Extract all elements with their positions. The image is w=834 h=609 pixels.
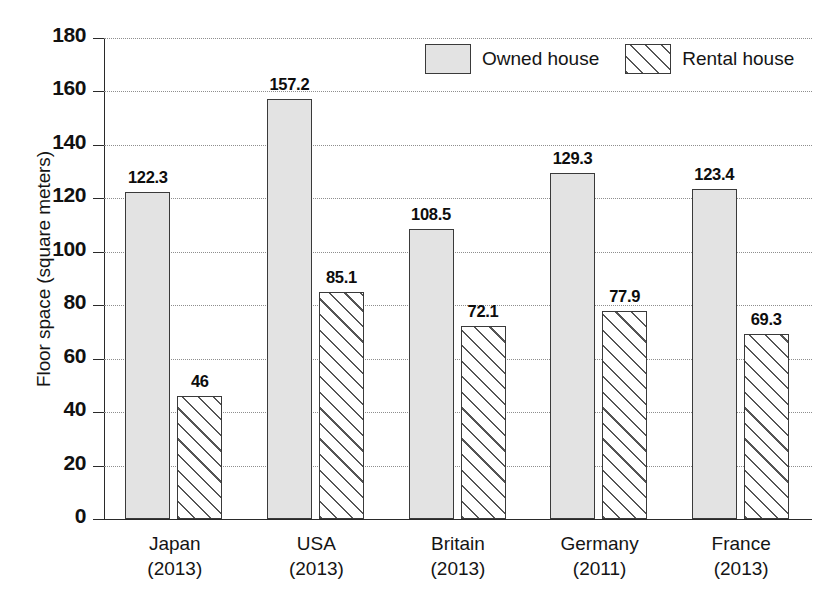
bar-value-label: 46	[159, 372, 240, 391]
bar-germany-rental	[602, 311, 647, 519]
y-axis-tick-label: 60	[0, 344, 86, 368]
bar-value-label: 122.3	[107, 168, 188, 187]
bar-germany-owned	[550, 173, 595, 519]
bar-japan-rental	[177, 396, 222, 519]
x-axis-label-france: France(2013)	[650, 531, 832, 581]
legend-swatch-owned	[425, 44, 471, 74]
legend-swatch-rental	[625, 44, 671, 74]
bar-value-label: 85.1	[301, 268, 382, 287]
y-axis-tick	[93, 359, 104, 360]
y-axis-tick-label: 160	[0, 76, 86, 100]
y-axis-tick	[93, 91, 104, 92]
chart-legend: Owned houseRental house	[425, 44, 794, 74]
y-axis-tick	[93, 519, 104, 520]
bar-value-label: 157.2	[249, 75, 330, 94]
legend-label: Rental house	[682, 48, 794, 70]
category-name: USA	[297, 533, 336, 554]
y-axis-tick-label: 80	[0, 290, 86, 314]
y-axis-tick-label: 100	[0, 237, 86, 261]
legend-entry-rental-house: Rental house	[625, 44, 794, 74]
bar-value-label: 129.3	[532, 149, 613, 168]
gridline	[104, 145, 812, 146]
bar-france-owned	[692, 189, 737, 519]
y-axis-tick	[93, 252, 104, 253]
category-name: Britain	[431, 533, 485, 554]
bar-value-label: 72.1	[443, 302, 524, 321]
y-axis-tick	[93, 412, 104, 413]
bar-value-label: 123.4	[674, 165, 755, 184]
y-axis-tick	[93, 198, 104, 199]
bar-value-label: 69.3	[726, 310, 807, 329]
category-year: (2013)	[650, 556, 832, 581]
y-axis-tick-label: 0	[0, 504, 86, 528]
y-axis-tick	[93, 38, 104, 39]
y-axis-tick	[93, 145, 104, 146]
y-axis-tick-label: 180	[0, 23, 86, 47]
y-axis-tick-label: 140	[0, 130, 86, 154]
gridline	[104, 91, 812, 92]
y-axis-tick-label: 120	[0, 183, 86, 207]
bar-usa-rental	[319, 292, 364, 519]
category-name: Germany	[561, 533, 639, 554]
y-axis-tick	[93, 466, 104, 467]
plot-area	[104, 38, 812, 519]
bar-britain-owned	[409, 229, 454, 519]
bar-france-rental	[744, 334, 789, 519]
legend-label: Owned house	[482, 48, 599, 70]
bar-usa-owned	[267, 99, 312, 519]
y-axis-tick-label: 40	[0, 397, 86, 421]
category-name: France	[712, 533, 771, 554]
bar-britain-rental	[461, 326, 506, 519]
x-axis-spine	[104, 519, 812, 520]
category-name: Japan	[149, 533, 201, 554]
y-axis-tick	[93, 305, 104, 306]
gridline	[104, 38, 812, 39]
bar-japan-owned	[125, 192, 170, 519]
legend-entry-owned-house: Owned house	[425, 44, 599, 74]
y-axis-tick-label: 20	[0, 451, 86, 475]
bar-chart: Floor space (square meters) 180160140120…	[0, 0, 834, 609]
bar-value-label: 108.5	[391, 205, 472, 224]
bar-value-label: 77.9	[584, 287, 665, 306]
